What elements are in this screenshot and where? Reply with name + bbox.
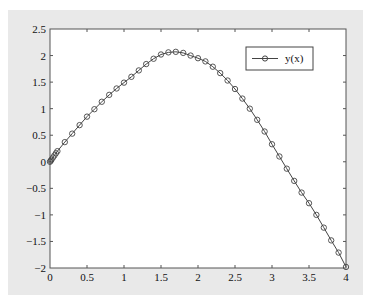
y-tick-label: 0 [41, 156, 47, 168]
y-tick-label: −1.5 [26, 235, 46, 247]
y-tick-label: 0.5 [32, 129, 46, 141]
y-tick-label: 2 [41, 50, 47, 62]
x-tick-label: 3 [269, 271, 275, 283]
x-tick-label: 0 [47, 271, 53, 283]
x-tick-label: 2 [195, 271, 201, 283]
y-tick-label: 1 [41, 103, 47, 115]
x-axis-tick-labels: 00.511.522.533.54 [47, 271, 349, 283]
x-tick-label: 1 [121, 271, 127, 283]
y-tick-label: 2.5 [32, 23, 46, 35]
x-tick-label: 2.5 [228, 271, 242, 283]
y-axis-tick-labels: 2.521.510.50−0.5−1−1.5−2 [26, 23, 46, 274]
y-tick-label: −0.5 [26, 182, 46, 194]
x-tick-label: 4 [343, 271, 349, 283]
line-chart: 00.511.522.533.54 2.521.510.50−0.5−1−1.5… [0, 0, 374, 308]
y-tick-label: −1 [34, 209, 46, 221]
y-tick-label: −2 [34, 262, 46, 274]
legend-label: y(x) [285, 52, 304, 65]
y-tick-label: 1.5 [32, 76, 46, 88]
x-tick-label: 3.5 [302, 271, 316, 283]
x-tick-label: 1.5 [154, 271, 168, 283]
legend: y(x) [246, 47, 313, 70]
x-tick-label: 0.5 [80, 271, 94, 283]
